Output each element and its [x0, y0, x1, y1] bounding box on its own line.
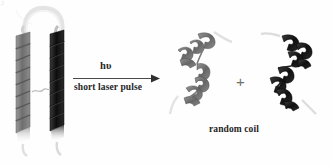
random-coil-gray-structure: [168, 22, 238, 122]
interhelix-link: [32, 89, 50, 92]
plus-separator: +: [236, 73, 245, 90]
alpha-helix-dark: [50, 26, 64, 155]
coil-segment-upper: [282, 35, 312, 69]
arrow-label-photon: hυ: [100, 60, 112, 71]
coil-tail: [261, 33, 280, 36]
coil-segment-upper: [178, 33, 215, 68]
coil-tail: [170, 96, 178, 114]
arrow-head-icon: [151, 75, 160, 83]
coil-tail: [302, 100, 316, 114]
reaction-scheme-figure: hυ short laser pulse: [0, 0, 332, 164]
coil-segment-lower: [184, 63, 210, 106]
products-caption: random coil: [209, 124, 259, 134]
alpha-helix-gray: [16, 26, 30, 156]
coil-tail: [214, 32, 232, 42]
arrow-label-pulse: short laser pulse: [74, 82, 142, 92]
coil-segment-lower: [270, 67, 299, 111]
random-coil-dark-structure: [258, 22, 328, 122]
